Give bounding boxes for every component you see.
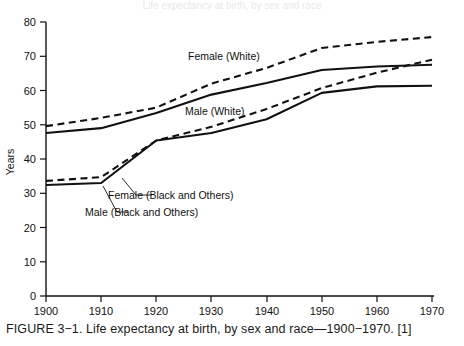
y-axis-title: Years [4, 149, 16, 175]
y-tick-label-60: 60 [24, 85, 36, 97]
y-tick-label-50: 50 [24, 119, 36, 131]
series-label-female-black-others: Female (Black and Others) [108, 189, 233, 201]
y-tick-label-70: 70 [24, 50, 36, 62]
x-tick-label-1910: 1910 [89, 305, 113, 317]
x-tick-label-1940: 1940 [255, 305, 279, 317]
y-tick-label-20: 20 [24, 222, 36, 234]
y-tick-marks [40, 22, 46, 296]
x-tick-label-1950: 1950 [310, 305, 334, 317]
y-tick-label-80: 80 [24, 16, 36, 28]
y-tick-label-10: 10 [24, 256, 36, 268]
x-tick-label-1970: 1970 [420, 305, 444, 317]
series-label-male-black-others: Male (Black and Others) [85, 206, 198, 218]
series-label-female-white: Female (White) [188, 50, 260, 62]
x-tick-label-1930: 1930 [199, 305, 223, 317]
y-tick-label-0: 0 [30, 290, 36, 302]
y-tick-label-40: 40 [24, 153, 36, 165]
x-tick-label-1920: 1920 [144, 305, 168, 317]
y-tick-label-30: 30 [24, 187, 36, 199]
series-label-male-white: Male (White) [185, 105, 245, 117]
series-line-male-black-and-others [46, 86, 432, 185]
figure-caption: FIGURE 3−1. Life expectancy at birth, by… [6, 322, 462, 336]
life-expectancy-line-chart: 80 70 60 50 40 30 20 10 0 Years 1900 191… [0, 0, 464, 320]
figure-container: Life expectancy at birth, by sex and rac… [0, 0, 464, 346]
x-tick-marks [46, 296, 432, 302]
x-tick-label-1900: 1900 [34, 305, 58, 317]
x-tick-label-1960: 1960 [365, 305, 389, 317]
series-line-female-black-and-others [46, 60, 432, 181]
